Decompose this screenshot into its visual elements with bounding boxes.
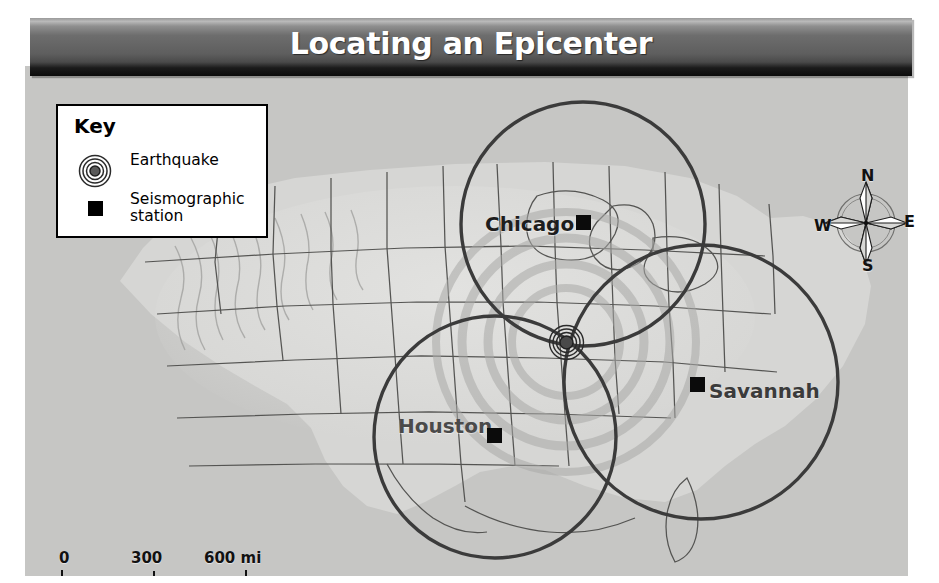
page-title: Locating an Epicenter [30, 26, 912, 61]
compass-label-east: E [904, 212, 915, 231]
scale-bar: 0 300 600 mi 0 300 600 km [59, 549, 279, 576]
map-key-box: Key Earthquake Seismographic station [56, 104, 268, 238]
key-label-earthquake: Earthquake [130, 152, 270, 169]
scale-mi-tick-600: 600 mi [204, 549, 261, 567]
earthquake-epicenter-icon [548, 324, 585, 361]
compass-label-west: W [814, 216, 832, 235]
scale-ruler-graphic [59, 569, 249, 576]
city-label-chicago: Chicago [485, 212, 574, 236]
locating-an-epicenter-figure: Locating an Epicenter [0, 0, 939, 583]
scale-mi-tick-0: 0 [59, 549, 69, 567]
key-heading: Key [74, 114, 116, 138]
earthquake-rings-icon [78, 154, 112, 188]
title-banner: Locating an Epicenter [30, 18, 912, 76]
seismographic-station-marker-houston [487, 428, 502, 443]
city-label-savannah: Savannah [709, 379, 820, 403]
seismographic-station-marker-savannah [690, 377, 705, 392]
compass-label-north: N [861, 166, 874, 185]
scale-mi-tick-300: 300 [131, 549, 162, 567]
compass-label-south: S [862, 256, 874, 275]
key-label-seismographic-station: Seismographic station [130, 191, 270, 225]
seismographic-station-marker-chicago [576, 215, 591, 230]
seismographic-station-square-icon [88, 201, 103, 216]
compass-rose: N E S W [812, 168, 920, 278]
city-label-houston: Houston [398, 414, 492, 438]
